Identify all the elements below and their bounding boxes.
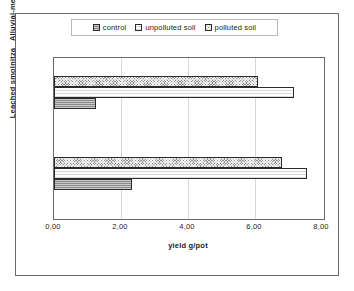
bar-leached-smolnitza-unpolluted-soil [54, 168, 307, 179]
x-axis-title: yield g/pot [53, 241, 323, 250]
x-tick-2: 2,00 [112, 222, 127, 231]
x-tick-8: 8,00 [313, 222, 328, 231]
x-tick-0: 0,00 [45, 222, 60, 231]
legend-label-control: control [103, 24, 127, 32]
polluted-soil-swatch-icon [205, 24, 212, 31]
x-tick-4: 4,00 [179, 222, 194, 231]
legend-entry-control: control [93, 24, 127, 32]
control-swatch-icon [93, 24, 100, 31]
bar-alluvial-meadow-soil-unpolluted-soil [54, 87, 294, 98]
x-tick-6: 6,00 [246, 222, 261, 231]
y-axis-category-leached-smolnitza: Leached smolnitza [8, 28, 17, 138]
bar-leached-smolnitza-control [54, 179, 132, 190]
legend-label-polluted-soil: polluted soil [215, 24, 257, 32]
legend-entry-polluted-soil: polluted soil [205, 24, 257, 32]
legend-entry-unpolluted-soil: unpolluted soil [135, 24, 195, 32]
chart-legend: control unpolluted soil polluted soil [71, 19, 278, 36]
chart-figure: control unpolluted soil polluted soil Al… [15, 13, 339, 276]
plot-area [53, 57, 325, 220]
legend-label-unpolluted-soil: unpolluted soil [145, 24, 195, 32]
bar-leached-smolnitza-polluted-soil [54, 157, 282, 168]
bar-alluvial-meadow-soil-control [54, 98, 96, 109]
bar-alluvial-meadow-soil-polluted-soil [54, 76, 258, 87]
unpolluted-soil-swatch-icon [135, 24, 142, 31]
